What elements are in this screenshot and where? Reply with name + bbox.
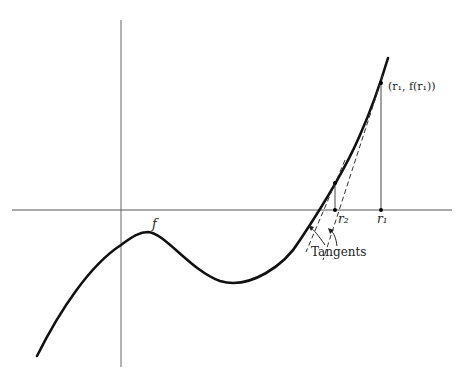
tangents-label: Tangents: [311, 245, 366, 259]
root-label-r2: r₂: [338, 212, 349, 226]
tangent-line-at-r2: [306, 160, 345, 252]
point-r2-fr2: [333, 181, 337, 185]
point-r2: [333, 208, 337, 212]
point-label-r1: (r₁, f(r₁)): [388, 80, 436, 93]
root-label-r1: r₁: [377, 212, 388, 226]
newton-method-diagram: f (r₁, f(r₁)) r₂ r₁ Tangents: [0, 0, 460, 376]
function-label: f: [151, 216, 159, 231]
point-r1-fr1: [379, 81, 383, 85]
